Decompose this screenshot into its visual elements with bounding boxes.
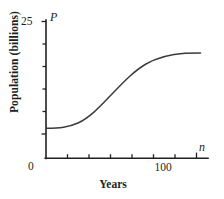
x-axis-tick-label-100: 100 (148, 161, 178, 173)
x-axis-title: Years (78, 178, 148, 190)
y-axis-title: Population (billions) (8, 0, 20, 124)
chart-figure: P n 25 0 100 Population (billions) Years (0, 0, 224, 199)
y-axis-tick-label-max: 25 (21, 15, 33, 27)
origin-tick-label: 0 (28, 160, 34, 172)
x-axis-ticks (68, 153, 197, 159)
y-axis-variable-label: P (50, 10, 57, 25)
population-curve (47, 53, 201, 128)
x-axis-variable-label: n (199, 140, 205, 155)
